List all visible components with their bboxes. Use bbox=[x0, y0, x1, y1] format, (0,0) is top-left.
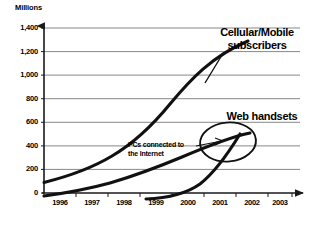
x-tick-label-2000: 2000 bbox=[171, 198, 205, 207]
x-tick-label-1999: 1999 bbox=[139, 198, 173, 207]
x-tick-label-2001: 2001 bbox=[203, 198, 237, 207]
chart-container: Millions 1,400 1,200 1,000 800 600 400 2… bbox=[0, 0, 313, 225]
y-tick-label: 1,200 bbox=[12, 48, 38, 56]
x-tick-label-1996: 1996 bbox=[43, 198, 77, 207]
y-tick-label: 200 bbox=[12, 165, 38, 173]
y-tick-label: 600 bbox=[12, 118, 38, 126]
y-tick-label: 800 bbox=[12, 95, 38, 103]
y-tick-label: 1,000 bbox=[12, 71, 38, 79]
y-tick-label: 0 bbox=[12, 189, 38, 197]
y-tick-label: 1,400 bbox=[12, 24, 38, 32]
x-tick-label-1997: 1997 bbox=[75, 198, 109, 207]
series-label-pcs: PCs connected to the Internet bbox=[128, 141, 212, 158]
series-label-cellular: Cellular/Mobile subscribers bbox=[205, 26, 309, 51]
series-label-web-handsets: Web handsets bbox=[214, 110, 310, 123]
y-axis-unit-label: Millions bbox=[15, 3, 42, 12]
y-tick-label: 400 bbox=[12, 142, 38, 150]
x-tick-label-1998: 1998 bbox=[107, 198, 141, 207]
x-tick-label-2003: 2003 bbox=[263, 198, 297, 207]
